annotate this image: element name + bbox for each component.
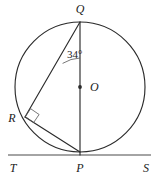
- vertex-label-r: R: [7, 111, 16, 125]
- right-angle-marker-r: [25, 109, 39, 123]
- vertex-label-s: S: [143, 161, 149, 175]
- vertex-label-o: O: [90, 80, 99, 94]
- geometry-figure: 34° Q P R O T S: [0, 0, 158, 176]
- geometry-canvas: 34° Q P R O T S: [0, 0, 158, 176]
- angle-label-34: 34°: [67, 48, 82, 60]
- vertex-label-p: P: [75, 161, 84, 175]
- vertex-label-t: T: [10, 161, 18, 175]
- vertex-label-q: Q: [76, 2, 85, 16]
- segment-qr: [25, 22, 80, 117]
- center-point-dot: [78, 85, 82, 89]
